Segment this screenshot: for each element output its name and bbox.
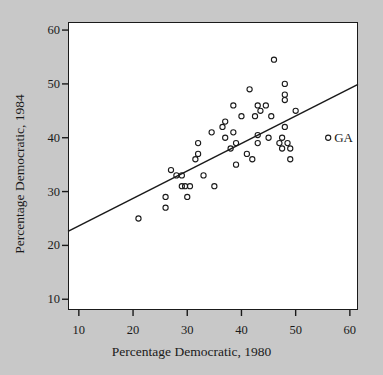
- y-axis-title: Percentage Democratic, 1984: [12, 74, 28, 274]
- y-tick-label: 20: [24, 239, 60, 252]
- x-tick-label: 30: [181, 324, 194, 337]
- y-tick-label: 30: [24, 185, 60, 198]
- x-tick-label: 50: [289, 324, 302, 337]
- x-tick-label: 60: [344, 324, 357, 337]
- scatter-plot-figure: 102030405060 102030405060 Percentage Dem…: [0, 0, 383, 375]
- y-tick-label: 60: [24, 24, 60, 37]
- y-tick-label: 50: [24, 78, 60, 91]
- plot-panel: [68, 22, 358, 310]
- y-tick-label: 10: [24, 293, 60, 306]
- y-tick-label: 40: [24, 131, 60, 144]
- x-axis-title: Percentage Democratic, 1980: [0, 344, 383, 360]
- annotation-label-ga: GA: [334, 130, 353, 146]
- x-tick-label: 20: [127, 324, 140, 337]
- x-tick-label: 40: [235, 324, 248, 337]
- x-tick-label: 10: [73, 324, 86, 337]
